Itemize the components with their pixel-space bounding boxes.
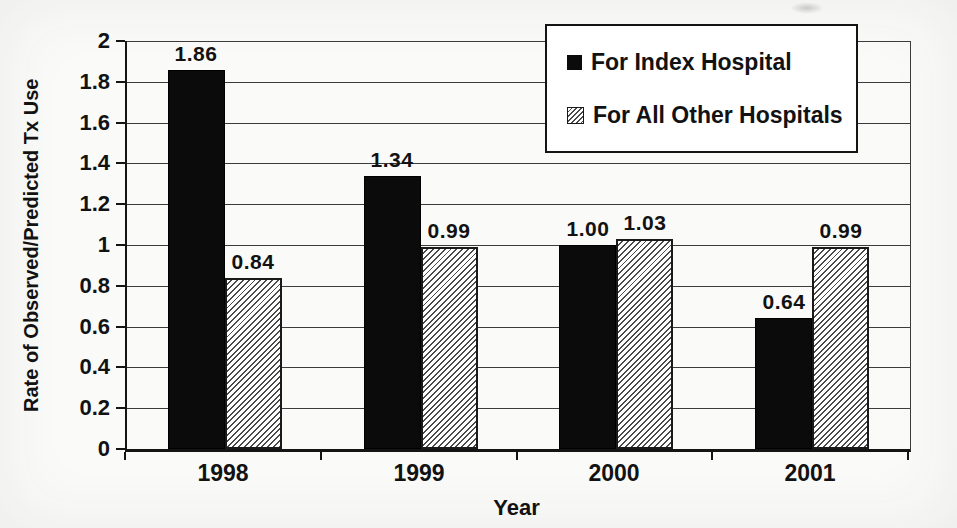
y-tick-mark — [116, 162, 125, 164]
x-axis-title: Year — [125, 495, 908, 521]
bar-index-hospital — [364, 176, 421, 449]
x-tick-mark — [711, 452, 713, 460]
legend-item-other-hospitals: For All Other Hospitals — [567, 102, 856, 129]
y-tick-label: 0.2 — [0, 394, 110, 422]
diagonal-hatch-swatch-icon — [567, 107, 584, 124]
bar-value-label: 0.84 — [213, 250, 293, 274]
y-tick-label: 0.8 — [0, 272, 110, 300]
y-tick-mark — [116, 40, 125, 42]
bar-value-label: 1.34 — [352, 148, 432, 172]
bar-other-hospitals — [225, 278, 282, 449]
solid-black-swatch-icon — [567, 55, 582, 70]
y-tick-label: 0.6 — [0, 313, 110, 341]
x-tick-label: 1998 — [163, 460, 283, 487]
scan-artifact — [790, 2, 824, 14]
legend-label-other-hospitals: For All Other Hospitals — [593, 102, 843, 129]
legend-label-index-hospital: For Index Hospital — [591, 49, 792, 76]
x-tick-label: 2000 — [554, 460, 674, 487]
legend-item-index-hospital: For Index Hospital — [567, 49, 856, 76]
y-tick-label: 1 — [0, 231, 110, 259]
x-tick-mark — [907, 452, 909, 460]
x-tick-mark — [320, 452, 322, 460]
y-tick-mark — [116, 326, 125, 328]
x-tick-label: 1999 — [359, 460, 479, 487]
bar-value-label: 1.86 — [156, 42, 236, 66]
y-tick-mark — [116, 407, 125, 409]
y-tick-label: 0 — [0, 435, 110, 463]
x-tick-mark — [124, 452, 126, 460]
y-tick-mark — [116, 122, 125, 124]
bar-other-hospitals — [421, 247, 478, 449]
bar-other-hospitals — [812, 247, 869, 449]
bar-chart-figure: Rate of Observed/Predicted Tx Use 1.860.… — [0, 0, 957, 528]
y-tick-mark — [116, 366, 125, 368]
legend-box: For Index Hospital For All Other Hospita… — [545, 24, 858, 153]
y-tick-label: 1.6 — [0, 109, 110, 137]
y-tick-mark — [116, 203, 125, 205]
x-tick-mark — [516, 452, 518, 460]
bar-value-label: 0.99 — [801, 219, 881, 243]
y-tick-label: 1.8 — [0, 68, 110, 96]
gridline — [127, 163, 910, 164]
x-tick-label: 2001 — [750, 460, 870, 487]
bar-value-label: 1.03 — [605, 211, 685, 235]
y-tick-mark — [116, 81, 125, 83]
y-tick-mark — [116, 244, 125, 246]
bar-index-hospital — [755, 318, 812, 449]
bar-value-label: 0.99 — [409, 219, 489, 243]
y-tick-label: 2 — [0, 27, 110, 55]
y-tick-label: 0.4 — [0, 353, 110, 381]
bar-other-hospitals — [616, 239, 673, 449]
y-tick-label: 1.4 — [0, 149, 110, 177]
y-tick-label: 1.2 — [0, 190, 110, 218]
y-tick-mark — [116, 285, 125, 287]
gridline — [127, 245, 910, 246]
gridline — [127, 204, 910, 205]
bar-index-hospital — [559, 245, 616, 449]
y-tick-mark — [116, 448, 125, 450]
